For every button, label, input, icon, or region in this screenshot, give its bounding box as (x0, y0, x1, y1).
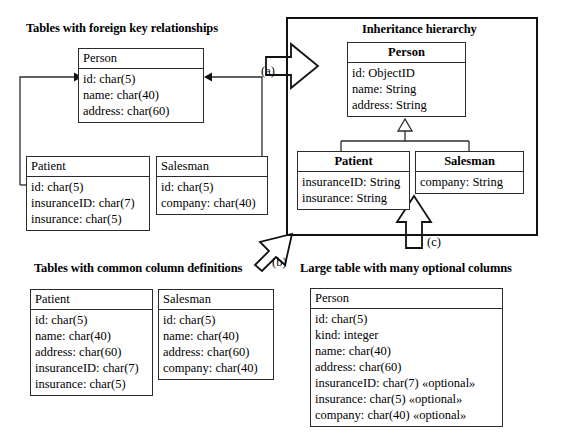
inheritance-class-person-attributes: id: ObjectID name: String address: Strin… (348, 63, 465, 116)
common-table-salesman: Salesman id: char(5) name: char(40) addr… (158, 289, 274, 380)
table-attr: kind: integer (315, 327, 498, 343)
table-attr: id: char(5) (315, 311, 498, 327)
common-table-patient-header: Patient (31, 290, 152, 310)
inheritance-class-patient-attributes: insuranceID: String insurance: String (298, 172, 409, 209)
optional-table-person-header: Person (311, 289, 502, 309)
table-attr: name: char(40) (83, 87, 199, 103)
class-attr: insurance: String (302, 190, 405, 206)
inheritance-class-salesman: Salesman company: String (415, 151, 524, 194)
inheritance-class-salesman-attributes: company: String (416, 172, 523, 193)
class-attr: company: String (420, 174, 519, 190)
section-title-optional-columns: Large table with many optional columns (300, 261, 512, 276)
table-attr: id: char(5) (161, 179, 263, 195)
table-attr: address: char(60) (163, 344, 269, 360)
fk-table-salesman: Salesman id: char(5) company: char(40) (156, 156, 268, 215)
table-attr: name: char(40) (315, 343, 498, 359)
common-table-patient-attributes: id: char(5) name: char(40) address: char… (31, 310, 152, 395)
table-attr: insurance: char(5) «optional» (315, 391, 498, 407)
class-attr: address: String (352, 97, 461, 113)
fk-table-person-attributes: id: char(5) name: char(40) address: char… (79, 69, 203, 122)
arrow-label-a: (a) (261, 64, 275, 79)
table-attr: id: char(5) (35, 312, 148, 328)
section-title-inheritance: Inheritance hierarchy (362, 22, 477, 37)
inheritance-class-person: Person id: ObjectID name: String address… (347, 42, 466, 117)
inheritance-class-person-header: Person (348, 43, 465, 63)
table-attr: id: char(5) (163, 312, 269, 328)
table-attr: insurance: char(5) (35, 376, 148, 392)
fk-table-salesman-header: Salesman (157, 157, 267, 177)
table-attr: id: char(5) (31, 179, 145, 195)
table-attr: address: char(60) (35, 344, 148, 360)
optional-table-person-attributes: id: char(5) kind: integer name: char(40)… (311, 309, 502, 426)
fk-table-patient: Patient id: char(5) insuranceID: char(7)… (26, 156, 150, 231)
inheritance-class-patient-header: Patient (298, 152, 409, 172)
fk-table-salesman-attributes: id: char(5) company: char(40) (157, 177, 267, 214)
class-attr: insuranceID: String (302, 174, 405, 190)
fk-table-person: Person id: char(5) name: char(40) addres… (78, 48, 204, 123)
table-attr: address: char(60) (315, 359, 498, 375)
table-attr: company: char(40) (161, 195, 263, 211)
table-attr: id: char(5) (83, 71, 199, 87)
diagram-canvas: Tables with foreign key relationships In… (0, 0, 561, 433)
arrow-label-c: (c) (427, 235, 441, 250)
common-table-salesman-attributes: id: char(5) name: char(40) address: char… (159, 310, 273, 379)
inheritance-class-salesman-header: Salesman (416, 152, 523, 172)
common-table-patient: Patient id: char(5) name: char(40) addre… (30, 289, 153, 396)
class-attr: name: String (352, 81, 461, 97)
optional-table-person: Person id: char(5) kind: integer name: c… (310, 288, 503, 427)
table-attr: name: char(40) (35, 328, 148, 344)
fk-table-person-header: Person (79, 49, 203, 69)
common-table-salesman-header: Salesman (159, 290, 273, 310)
table-attr: company: char(40) (163, 360, 269, 376)
section-title-common-columns: Tables with common column definitions (34, 261, 242, 276)
table-attr: insurance: char(5) (31, 211, 145, 227)
arrow-label-b: (b) (272, 255, 287, 270)
fk-table-patient-attributes: id: char(5) insuranceID: char(7) insuran… (27, 177, 149, 230)
fk-table-patient-header: Patient (27, 157, 149, 177)
inheritance-class-patient: Patient insuranceID: String insurance: S… (297, 151, 410, 210)
table-attr: insuranceID: char(7) (35, 360, 148, 376)
section-title-foreign-key: Tables with foreign key relationships (26, 21, 218, 36)
table-attr: address: char(60) (83, 103, 199, 119)
class-attr: id: ObjectID (352, 65, 461, 81)
table-attr: insuranceID: char(7) (31, 195, 145, 211)
table-attr: company: char(40) «optional» (315, 407, 498, 423)
table-attr: name: char(40) (163, 328, 269, 344)
table-attr: insuranceID: char(7) «optional» (315, 375, 498, 391)
